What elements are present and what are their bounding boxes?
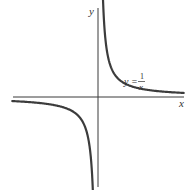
x-axis-label: x: [178, 97, 184, 109]
equation-numerator: 1: [140, 72, 144, 81]
equation-lhs: y =: [123, 76, 138, 87]
equation-label: y = 1 x: [123, 72, 145, 92]
equation-denominator: x: [138, 82, 143, 92]
hyperbola-plot: y x y = 1 x: [0, 0, 194, 190]
negative-branch-curve: [11, 101, 94, 190]
y-axis-label: y: [88, 5, 94, 17]
